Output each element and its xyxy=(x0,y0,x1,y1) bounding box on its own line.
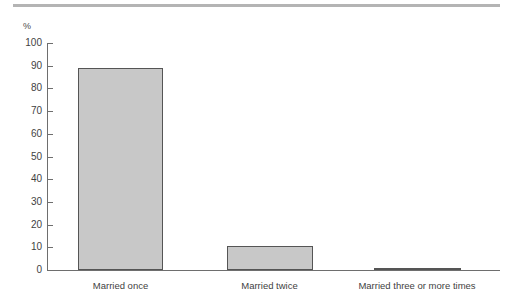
y-axis-tick-mark xyxy=(48,270,53,271)
x-axis-category-label: Married twice xyxy=(241,280,298,292)
y-axis-tick: 80 xyxy=(47,88,53,89)
y-axis-tick: 20 xyxy=(47,225,53,226)
y-axis-tick-mark xyxy=(48,179,53,180)
y-axis-tick-mark xyxy=(48,88,53,89)
y-axis-tick-mark xyxy=(48,43,53,44)
y-axis-unit-label: % xyxy=(23,21,31,32)
y-axis-tick: 90 xyxy=(47,66,53,67)
y-axis-tick-label: 0 xyxy=(36,263,42,276)
y-axis-tick: 40 xyxy=(47,179,53,180)
y-axis-tick-label: 70 xyxy=(31,104,42,117)
y-axis-tick-label: 90 xyxy=(31,59,42,72)
y-axis-tick: 30 xyxy=(47,202,53,203)
y-axis-tick: 100 xyxy=(47,43,53,44)
x-axis-category-label: Married once xyxy=(93,280,148,292)
y-axis-tick-label: 30 xyxy=(31,195,42,208)
y-axis-tick-label: 80 xyxy=(31,81,42,94)
y-axis-tick-mark xyxy=(48,66,53,67)
bar xyxy=(227,246,313,270)
x-axis-category-label: Married three or more times xyxy=(358,280,475,292)
y-axis-tick-label: 20 xyxy=(31,218,42,231)
y-axis-tick-label: 50 xyxy=(31,150,42,163)
y-axis-tick: 50 xyxy=(47,157,53,158)
plot-area: 1009080706050403020100 xyxy=(47,43,500,270)
bar xyxy=(374,268,461,271)
y-axis-tick-mark xyxy=(48,157,53,158)
y-axis-tick-mark xyxy=(48,111,53,112)
y-axis-tick: 0 xyxy=(47,270,53,271)
y-axis-tick-label: 40 xyxy=(31,172,42,185)
y-axis-tick-mark xyxy=(48,202,53,203)
y-axis-tick-mark xyxy=(48,225,53,226)
top-rule-divider xyxy=(13,4,500,7)
y-axis-tick: 70 xyxy=(47,111,53,112)
y-axis-tick-label: 10 xyxy=(31,240,42,253)
y-axis-tick-mark xyxy=(48,134,53,135)
chart-figure: % 1009080706050403020100 Married onceMar… xyxy=(0,0,510,307)
y-axis-tick: 10 xyxy=(47,247,53,248)
y-axis-tick-mark xyxy=(48,247,53,248)
y-axis-tick: 60 xyxy=(47,134,53,135)
y-axis-tick-label: 100 xyxy=(25,36,42,49)
bar xyxy=(78,68,163,270)
y-axis-tick-label: 60 xyxy=(31,127,42,140)
